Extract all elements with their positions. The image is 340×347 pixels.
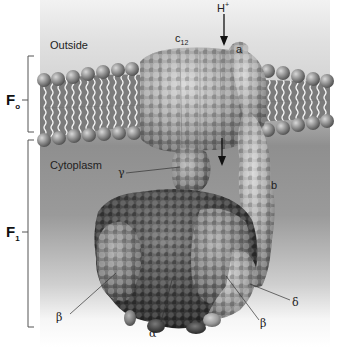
cytoplasm-label: Cytoplasm: [50, 160, 102, 171]
subunit-a-label: a: [236, 44, 242, 55]
figure-artwork: [0, 0, 340, 347]
f1-label: F1: [6, 224, 20, 239]
fo-bracket: [28, 56, 34, 132]
subunit-beta-right-label: β: [260, 318, 266, 329]
f1-bracket: [28, 140, 34, 327]
subunit-c12-label: c12: [175, 33, 188, 44]
fo-label: Fo: [6, 92, 20, 107]
subunit-gamma-label: γ: [118, 167, 125, 178]
subunit-b-label: b: [271, 180, 277, 191]
outside-label: Outside: [50, 40, 88, 51]
domain-brackets: [22, 56, 34, 327]
subunit-delta-label: δ: [292, 297, 299, 308]
subunit-alpha-label: α: [149, 328, 156, 339]
atp-synthase-figure: Outside Cytoplasm Fo F1 H+ c12 a b γ δ β…: [0, 0, 340, 347]
subunit-beta-left-label: β: [56, 312, 62, 323]
proton-label: H+: [217, 3, 229, 14]
